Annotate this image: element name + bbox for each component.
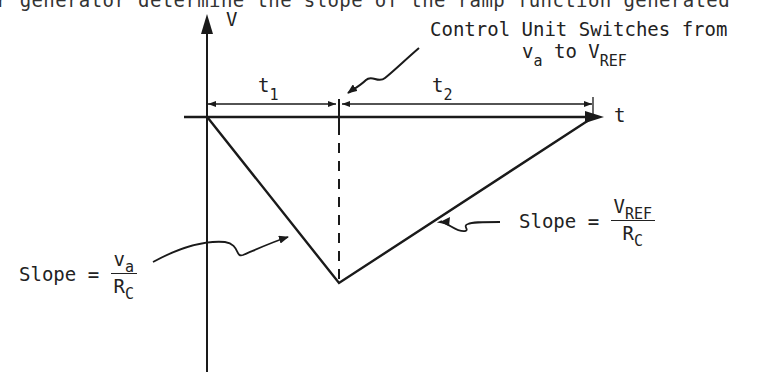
left-slope-formula: Slope = va RC — [19, 248, 137, 299]
right-slope-numerator: VREF — [611, 195, 656, 221]
v-axis-label: V — [226, 8, 237, 30]
v-axis — [201, 14, 213, 372]
left-slope-pointer-arrow-icon — [153, 237, 288, 262]
right-slope-denominator: RC — [623, 221, 643, 246]
left-slope-denominator: RC — [114, 274, 134, 299]
interval-dimension-lines — [208, 97, 593, 125]
switch-annotation-line2: va to VREF — [522, 40, 627, 62]
switch-annotation-line1: Control Unit Switches from — [430, 18, 727, 40]
t-axis-label: t — [614, 104, 625, 126]
ramp-diagram — [0, 0, 775, 382]
switch-pointer-arrow-icon — [348, 48, 419, 93]
v-axis-arrow-icon — [201, 14, 213, 34]
interval-t1-label: t1 — [258, 74, 278, 96]
left-slope-numerator: va — [111, 248, 137, 274]
right-slope-formula: Slope = VREF RC — [519, 195, 655, 246]
t-axis — [184, 111, 604, 123]
right-slope-arrowhead-icon — [440, 217, 450, 226]
interval-t2-label: t2 — [432, 74, 452, 96]
